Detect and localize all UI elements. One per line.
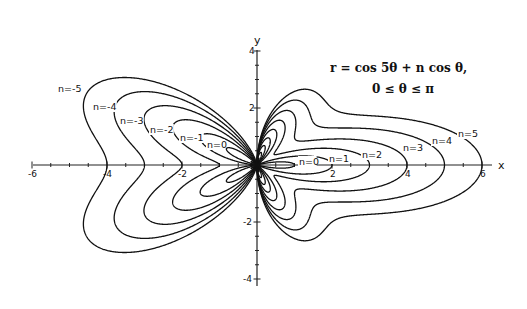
curve-label: n=1 bbox=[329, 153, 349, 164]
theta-range: 0 ≤ θ ≤ π bbox=[372, 82, 434, 96]
y-tick-label: 2 bbox=[249, 103, 255, 113]
equation-text: r = cos 5θ + n cos θ, bbox=[330, 61, 467, 75]
x-tick-label: -6 bbox=[28, 169, 37, 179]
y-tick-label: -2 bbox=[243, 217, 252, 227]
theta-range-text: 0 ≤ θ ≤ π bbox=[372, 82, 434, 96]
curve-label: n=-3 bbox=[120, 115, 143, 126]
curve-label: n=-1 bbox=[180, 132, 203, 143]
x-axis-label: x bbox=[498, 159, 505, 172]
x-tick-label: 2 bbox=[330, 169, 336, 179]
curve-label: n=2 bbox=[362, 149, 382, 160]
curve-label: n=4 bbox=[432, 135, 452, 146]
y-tick-label: -4 bbox=[243, 274, 252, 284]
equation-title: r = cos 5θ + n cos θ, bbox=[330, 61, 467, 75]
curve-label: n=-4 bbox=[93, 101, 116, 112]
curve-label: n=5 bbox=[458, 128, 478, 139]
curve-label: n=3 bbox=[403, 142, 423, 153]
curve-label: n=0 bbox=[299, 156, 319, 167]
curve-label: n=0 bbox=[207, 139, 227, 150]
y-tick-label: 4 bbox=[249, 46, 255, 56]
curve-label: n=-5 bbox=[58, 83, 81, 94]
curve-label: n=-2 bbox=[150, 124, 173, 135]
y-axis-label: y bbox=[254, 34, 261, 47]
polar-plot: -6-4-224642-2-4xy n=-5n=-4n=-3n=-2n=-1n=… bbox=[0, 0, 527, 309]
